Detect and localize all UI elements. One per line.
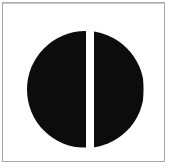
vertical-divider-slit (86, 24, 94, 148)
drawing-canvas (3, 3, 164, 161)
symbol-figure (0, 0, 171, 167)
